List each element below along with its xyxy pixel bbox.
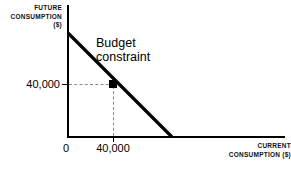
budget-constraint-diagram: FUTURE CONSUMPTION ($) CURRENT CONSUMPTI…: [0, 0, 291, 172]
budget-constraint-label-line-2: constraint: [96, 51, 150, 65]
y-axis-title-line-1: FUTURE: [0, 4, 62, 13]
x-axis-title-line-2: CONSUMPTION ($): [205, 151, 291, 160]
x-axis-title-line-1: CURRENT: [205, 142, 291, 151]
y-axis-title: FUTURE CONSUMPTION ($): [0, 4, 62, 30]
budget-constraint-label-line-1: Budget: [96, 37, 150, 51]
y-axis-title-line-2: CONSUMPTION: [0, 13, 62, 22]
origin-label: 0: [59, 142, 73, 154]
x-axis-title: CURRENT CONSUMPTION ($): [205, 142, 291, 159]
budget-constraint-label: Budget constraint: [96, 37, 150, 64]
y-axis-title-line-3: ($): [0, 21, 62, 30]
y-axis-tick-label: 40,000: [6, 78, 60, 90]
budget-point-marker: [109, 80, 117, 88]
x-axis-tick-label: 40,000: [88, 142, 138, 154]
